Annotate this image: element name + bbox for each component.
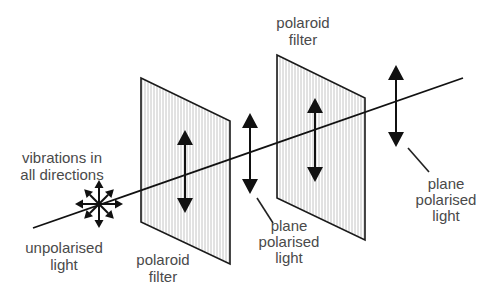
label-line: polarised [259, 233, 320, 250]
label-polaroid-filter-2: polaroid filter [276, 14, 329, 48]
label-line: plane [271, 217, 308, 234]
unpolarised-vibrations-icon [75, 180, 123, 228]
vibration-arrowhead [115, 200, 123, 209]
label-unpolarised-light: unpolarised light [25, 239, 103, 273]
vibration-shaft [99, 204, 108, 213]
label-line: polaroid [136, 251, 189, 268]
label-line: all directions [20, 166, 103, 183]
label-line: filter [289, 31, 317, 48]
polaroid-filter-2 [277, 55, 365, 240]
label-line: unpolarised [25, 239, 103, 256]
arrowhead-down [388, 132, 404, 147]
arrowhead-down [242, 179, 258, 194]
label-line: plane [428, 175, 465, 192]
arrowhead-up [388, 65, 404, 80]
vibration-arrowhead [95, 220, 104, 228]
label-vibrations-all-directions: vibrations in all directions [20, 149, 103, 183]
label-line: polarised [416, 191, 477, 208]
output-label-leader [408, 148, 429, 172]
label-line: polaroid [276, 14, 329, 31]
label-plane-polarised-between: plane polarised light [259, 217, 320, 266]
vibration-arrowhead [75, 200, 83, 209]
output-vibration-arrow [388, 65, 404, 147]
label-plane-polarised-output: plane polarised light [416, 175, 477, 224]
label-line: light [275, 249, 303, 266]
polarisation-diagram: vibrations in all directions unpolarised… [0, 0, 494, 290]
label-line: light [432, 207, 460, 224]
vibration-shaft [90, 195, 99, 204]
label-line: filter [149, 268, 177, 285]
label-polaroid-filter-1: polaroid filter [136, 251, 189, 285]
label-line: vibrations in [22, 149, 102, 166]
arrowhead-up [242, 113, 258, 128]
label-line: light [50, 256, 78, 273]
